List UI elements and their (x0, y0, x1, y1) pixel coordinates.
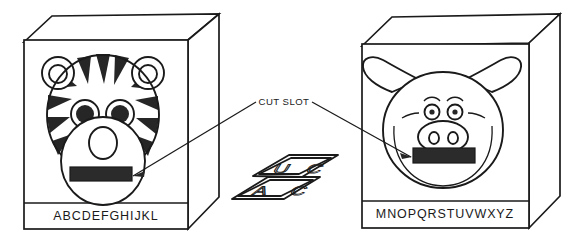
figure-canvas: ABCDEFGHIJKL (0, 0, 580, 244)
tiger-box: ABCDEFGHIJKL (24, 14, 219, 229)
diagram-svg: ABCDEFGHIJKL (0, 0, 580, 244)
pig-box: MNOPQRSTUVWXYZ (362, 14, 560, 228)
pig-eye-left-pupil (429, 109, 434, 114)
pig-nostril-left (429, 132, 439, 144)
pig-box-alphabet-label: MNOPQRSTUVWXYZ (376, 207, 514, 221)
tiger-box-alphabet-label: ABCDEFGHIJKL (53, 209, 158, 223)
tiger-nose (89, 127, 117, 159)
pig-box-slot[interactable] (413, 148, 475, 163)
letter-cards: U C A C (232, 155, 338, 199)
pig-box-side-face (529, 14, 560, 228)
pig-nostril-right (448, 132, 458, 144)
pig-eye-right-pupil (452, 109, 457, 114)
tiger-box-slot[interactable] (70, 167, 132, 181)
tiger-box-side-face (188, 14, 219, 229)
cut-slot-label: CUT SLOT (259, 96, 310, 107)
